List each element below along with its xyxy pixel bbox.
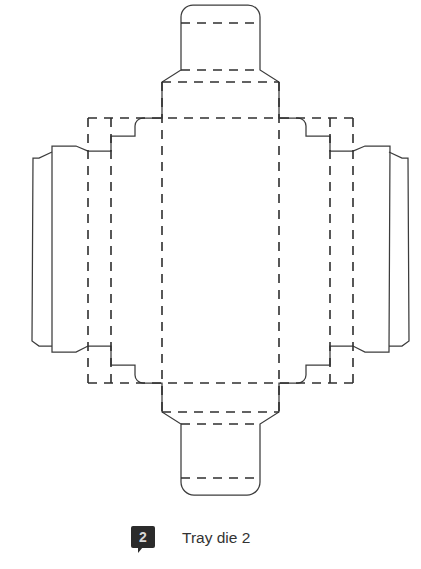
dieline-drawing — [0, 0, 421, 569]
badge-pointer-icon — [138, 547, 143, 553]
badge-body: 2 — [131, 526, 155, 548]
figure-title: Tray die 2 — [182, 530, 250, 546]
die-cut-diagram: 2 Tray die 2 — [0, 0, 421, 569]
figure-caption: 2 Tray die 2 — [0, 516, 421, 560]
badge-number-label: 2 — [139, 530, 147, 544]
figure-number-badge: 2 — [131, 526, 155, 551]
